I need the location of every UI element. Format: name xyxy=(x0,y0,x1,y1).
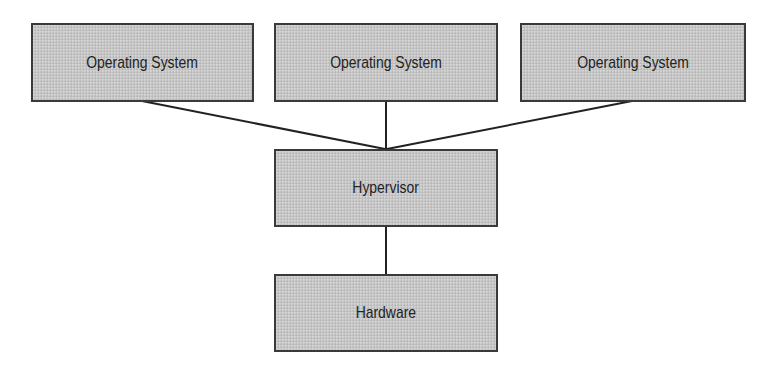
edge-os1-to-hypervisor xyxy=(142,101,385,149)
node-operating-system-2: Operating System xyxy=(274,23,498,102)
node-operating-system-1: Operating System xyxy=(31,23,254,102)
node-label: Operating System xyxy=(577,53,689,73)
node-label: Hardware xyxy=(356,303,416,323)
node-label: Hypervisor xyxy=(353,178,420,198)
edge-os3-to-hypervisor xyxy=(387,101,632,149)
node-operating-system-3: Operating System xyxy=(520,23,746,102)
node-hardware: Hardware xyxy=(274,274,498,352)
node-hypervisor: Hypervisor xyxy=(274,149,498,227)
node-label: Operating System xyxy=(87,53,199,73)
node-label: Operating System xyxy=(330,53,442,73)
